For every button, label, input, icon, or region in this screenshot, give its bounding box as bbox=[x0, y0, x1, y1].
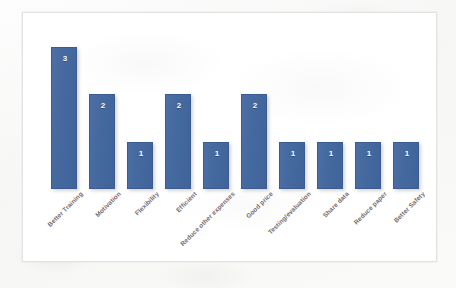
category-label: Motivation bbox=[46, 190, 122, 266]
bar-value-label: 3 bbox=[52, 54, 78, 63]
bar-value-label: 1 bbox=[394, 149, 420, 158]
bar[interactable]: 2 bbox=[241, 94, 267, 189]
category-label: Reduce paper bbox=[312, 190, 388, 266]
chart-frame: 3 Better Training 2 Motivation 1 Flexibi… bbox=[22, 12, 437, 262]
bar-value-label: 2 bbox=[90, 101, 116, 110]
bar-value-label: 1 bbox=[356, 149, 382, 158]
category-label: Share data bbox=[274, 190, 350, 266]
category-label: Efficient bbox=[122, 190, 198, 266]
bar[interactable]: 1 bbox=[317, 142, 343, 189]
category-label: Testing/evaluation bbox=[236, 190, 312, 266]
category-label: Good price bbox=[198, 190, 274, 266]
bar[interactable]: 1 bbox=[203, 142, 229, 189]
category-label: Better Safety bbox=[350, 190, 426, 266]
bar-value-label: 2 bbox=[242, 101, 268, 110]
bar-value-label: 2 bbox=[166, 101, 192, 110]
bar-value-label: 1 bbox=[280, 149, 306, 158]
category-label: Flexibility bbox=[84, 190, 160, 266]
bar[interactable]: 1 bbox=[355, 142, 381, 189]
bar-chart-plot-area: 3 Better Training 2 Motivation 1 Flexibi… bbox=[23, 13, 436, 261]
bar-value-label: 1 bbox=[128, 149, 154, 158]
bar-value-label: 1 bbox=[204, 149, 230, 158]
category-label: Reduce other expenses bbox=[160, 190, 236, 266]
bar-value-label: 1 bbox=[318, 149, 344, 158]
bar[interactable]: 2 bbox=[89, 94, 115, 189]
bar[interactable]: 3 bbox=[51, 47, 77, 189]
category-label: Better Training bbox=[8, 190, 84, 266]
bar[interactable]: 1 bbox=[127, 142, 153, 189]
bar[interactable]: 1 bbox=[393, 142, 419, 189]
bar[interactable]: 1 bbox=[279, 142, 305, 189]
bar[interactable]: 2 bbox=[165, 94, 191, 189]
